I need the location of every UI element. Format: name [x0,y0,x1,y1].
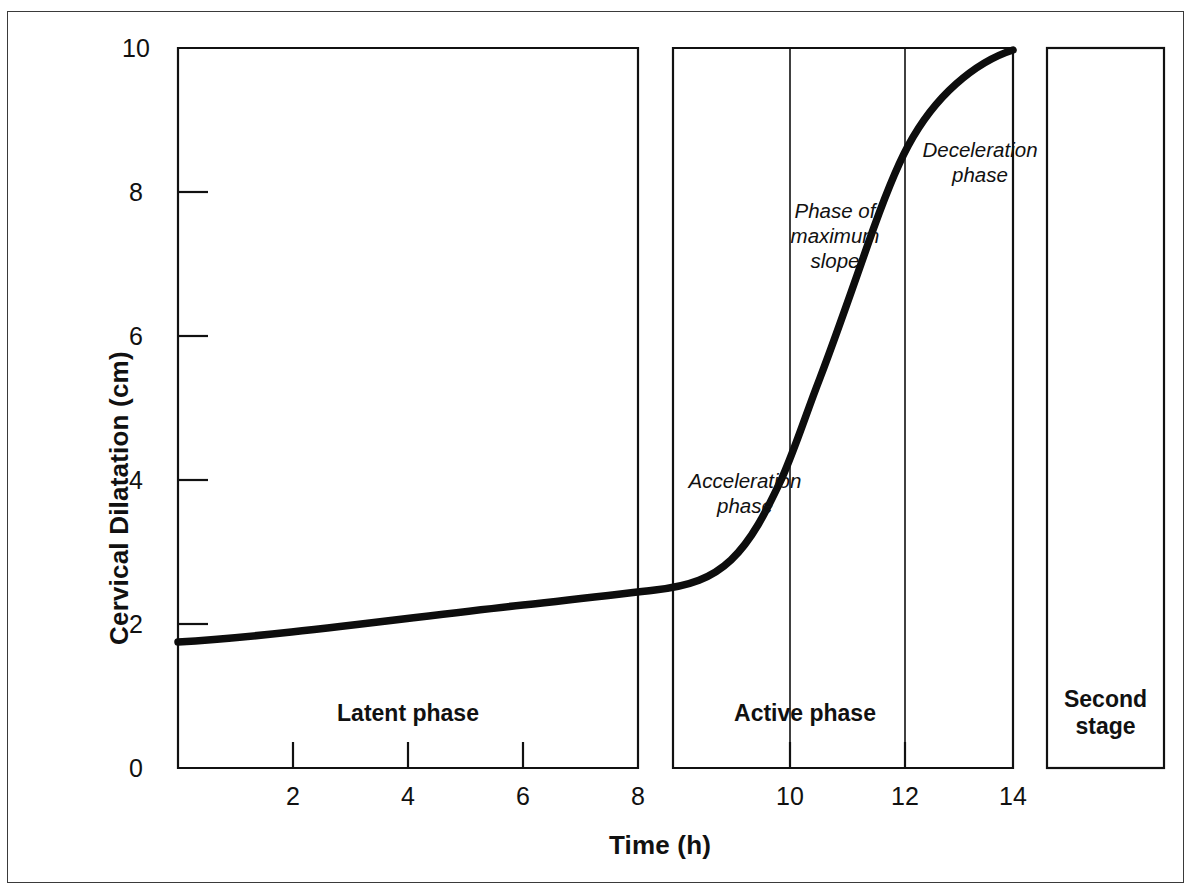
x-tick-label-2: 2 [263,782,323,812]
x-tick-label-12: 12 [875,782,935,812]
latent-phase-label: Latent phase [308,700,508,727]
deceleration-phase-annotation: Deceleration phase [905,137,1055,187]
y-axis-title: Cervical Dilatation (cm) [104,351,135,645]
y-tick-label-8: 8 [108,178,164,208]
y-tick-label-4: 4 [108,466,164,496]
second-stage-label: Second stage [1047,686,1164,740]
maximum-slope-annotation: Phase of maximum slope [770,198,900,273]
y-axis-ticks [178,192,208,624]
y-tick-label-10: 10 [108,34,164,64]
x-axis-ticks-active [790,742,905,768]
dilatation-curve [178,50,1013,642]
x-tick-label-10: 10 [760,782,820,812]
x-tick-label-4: 4 [378,782,438,812]
y-tick-label-6: 6 [108,322,164,352]
second-stage-box [1047,48,1164,768]
figure-page: Cervical Dilatation (cm) Time (h) 10 8 6… [0,0,1192,895]
x-axis-title: Time (h) [560,830,760,861]
acceleration-phase-annotation: Acceleration phase [660,468,830,518]
active-phase-label: Active phase [705,700,905,727]
dilatation-curve-chart [0,0,1192,895]
y-tick-label-0: 0 [108,754,164,784]
x-tick-label-6: 6 [493,782,553,812]
x-axis-ticks-latent [293,742,523,768]
latent-phase-box [178,48,638,768]
x-tick-label-14: 14 [983,782,1043,812]
y-tick-label-2: 2 [108,610,164,640]
x-tick-label-8: 8 [608,782,668,812]
